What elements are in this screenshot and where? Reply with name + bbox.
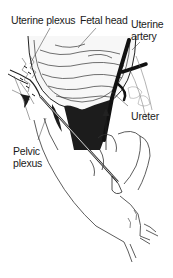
label-uterine-artery: Uterine artery <box>131 18 173 42</box>
label-uterine-plexus: Uterine plexus <box>11 14 75 26</box>
label-fetal-head: Fetal head <box>80 14 128 26</box>
label-ureter: Ureter <box>131 110 159 122</box>
label-pelvic-plexus: Pelvic plexus <box>13 145 53 169</box>
